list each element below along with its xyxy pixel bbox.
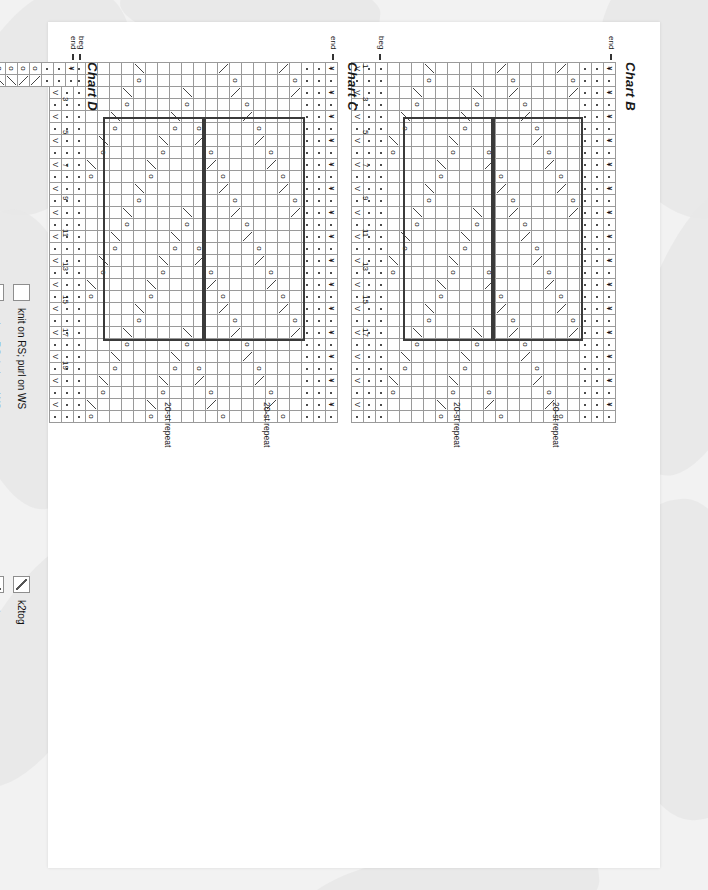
chart-cell[interactable]	[326, 63, 338, 75]
chart-cell[interactable]	[50, 411, 62, 423]
chart-cell[interactable]	[98, 219, 110, 231]
chart-cell[interactable]	[218, 327, 230, 339]
chart-cell[interactable]	[206, 339, 218, 351]
chart-cell[interactable]	[170, 303, 182, 315]
chart-cell[interactable]	[544, 123, 556, 135]
chart-cell[interactable]	[484, 279, 496, 291]
chart-cell[interactable]	[98, 171, 110, 183]
chart-cell[interactable]	[592, 339, 604, 351]
chart-cell[interactable]	[604, 207, 616, 219]
chart-cell[interactable]	[158, 387, 170, 399]
chart-cell[interactable]	[424, 267, 436, 279]
chart-cell[interactable]	[448, 75, 460, 87]
chart-cell[interactable]	[400, 279, 412, 291]
chart-cell[interactable]	[302, 303, 314, 315]
chart-cell[interactable]	[568, 123, 580, 135]
chart-cell[interactable]	[448, 375, 460, 387]
chart-cell[interactable]	[230, 183, 242, 195]
chart-cell[interactable]	[158, 279, 170, 291]
chart-d-grid[interactable]: 20-st repeat20-st repeatendbeg	[0, 62, 78, 87]
chart-cell[interactable]	[412, 123, 424, 135]
chart-cell[interactable]	[110, 219, 122, 231]
chart-cell[interactable]	[254, 75, 266, 87]
chart-cell[interactable]	[460, 267, 472, 279]
chart-cell[interactable]	[436, 147, 448, 159]
chart-cell[interactable]	[400, 159, 412, 171]
chart-cell[interactable]	[146, 231, 158, 243]
chart-cell[interactable]	[472, 183, 484, 195]
chart-cell[interactable]	[364, 399, 376, 411]
chart-cell[interactable]	[302, 219, 314, 231]
chart-cell[interactable]	[520, 111, 532, 123]
chart-cell[interactable]	[134, 279, 146, 291]
chart-cell[interactable]	[436, 231, 448, 243]
chart-cell[interactable]	[302, 411, 314, 423]
chart-cell[interactable]	[448, 255, 460, 267]
chart-cell[interactable]	[496, 375, 508, 387]
chart-cell[interactable]	[436, 315, 448, 327]
chart-cell[interactable]	[496, 339, 508, 351]
chart-cell[interactable]	[532, 75, 544, 87]
chart-cell[interactable]	[182, 123, 194, 135]
chart-cell[interactable]	[314, 171, 326, 183]
chart-cell[interactable]	[290, 411, 302, 423]
chart-cell[interactable]	[254, 363, 266, 375]
chart-cell[interactable]	[50, 363, 62, 375]
chart-cell[interactable]	[74, 231, 86, 243]
chart-cell[interactable]	[448, 183, 460, 195]
chart-cell[interactable]	[484, 159, 496, 171]
chart-cell[interactable]	[122, 183, 134, 195]
chart-cell[interactable]	[472, 159, 484, 171]
chart-cell[interactable]	[230, 75, 242, 87]
chart-cell[interactable]	[74, 267, 86, 279]
chart-cell[interactable]	[290, 171, 302, 183]
chart-cell[interactable]	[134, 135, 146, 147]
chart-cell[interactable]	[364, 375, 376, 387]
chart-cell[interactable]	[484, 363, 496, 375]
chart-cell[interactable]	[556, 87, 568, 99]
chart-cell[interactable]	[194, 327, 206, 339]
chart-cell[interactable]	[98, 279, 110, 291]
chart-cell[interactable]	[580, 171, 592, 183]
chart-cell[interactable]	[556, 291, 568, 303]
chart-cell[interactable]	[364, 147, 376, 159]
chart-cell[interactable]	[400, 411, 412, 423]
chart-cell[interactable]	[544, 147, 556, 159]
chart-cell[interactable]	[182, 411, 194, 423]
chart-cell[interactable]	[604, 183, 616, 195]
chart-cell[interactable]	[496, 63, 508, 75]
chart-cell[interactable]	[448, 327, 460, 339]
chart-cell[interactable]	[290, 87, 302, 99]
chart-cell[interactable]	[314, 267, 326, 279]
chart-cell[interactable]	[496, 243, 508, 255]
chart-cell[interactable]	[424, 207, 436, 219]
chart-cell[interactable]	[568, 339, 580, 351]
chart-cell[interactable]	[520, 399, 532, 411]
chart-cell[interactable]	[86, 339, 98, 351]
chart-cell[interactable]	[400, 255, 412, 267]
chart-cell[interactable]	[50, 291, 62, 303]
chart-cell[interactable]	[508, 135, 520, 147]
chart-cell[interactable]	[520, 171, 532, 183]
chart-cell[interactable]	[314, 219, 326, 231]
chart-cell[interactable]	[460, 303, 472, 315]
chart-cell[interactable]	[484, 63, 496, 75]
chart-cell[interactable]	[314, 387, 326, 399]
chart-cell[interactable]	[54, 63, 66, 75]
chart-cell[interactable]	[62, 147, 74, 159]
chart-cell[interactable]	[98, 231, 110, 243]
chart-cell[interactable]	[460, 171, 472, 183]
chart-cell[interactable]	[242, 147, 254, 159]
chart-cell[interactable]	[544, 303, 556, 315]
chart-cell[interactable]	[254, 339, 266, 351]
chart-cell[interactable]	[194, 87, 206, 99]
chart-cell[interactable]	[110, 303, 122, 315]
chart-cell[interactable]	[376, 63, 388, 75]
chart-cell[interactable]	[206, 387, 218, 399]
chart-cell[interactable]	[50, 111, 62, 123]
chart-cell[interactable]	[592, 75, 604, 87]
chart-cell[interactable]	[182, 303, 194, 315]
chart-cell[interactable]	[556, 75, 568, 87]
chart-cell[interactable]	[326, 411, 338, 423]
chart-cell[interactable]	[556, 63, 568, 75]
